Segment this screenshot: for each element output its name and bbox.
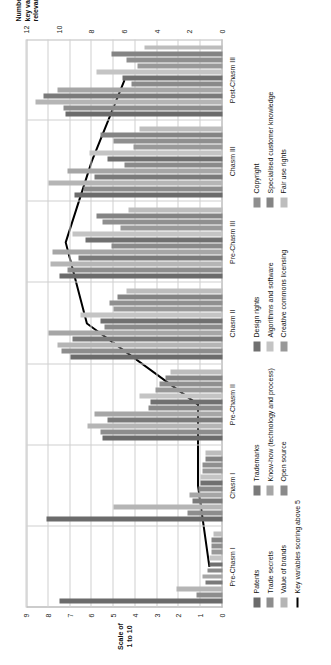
legend-column: PatentsTrade secretsValue of brandsKey v… <box>252 500 306 607</box>
legend-item[interactable]: Value of brands <box>279 500 287 607</box>
bar-group <box>26 39 222 120</box>
legend-item[interactable]: Trademarks <box>252 368 260 495</box>
legend-label: Fair use rights <box>279 149 287 193</box>
legend-item[interactable]: Know-how (technology and process) <box>266 368 274 495</box>
bar <box>126 288 222 293</box>
bar-group <box>26 201 222 282</box>
bar <box>83 186 222 191</box>
bar <box>192 498 222 503</box>
bar <box>57 342 223 347</box>
bar <box>202 462 222 467</box>
bar <box>144 45 222 50</box>
bar <box>100 132 222 137</box>
bar <box>80 312 222 317</box>
bar <box>211 537 222 542</box>
bar <box>35 99 222 104</box>
bar <box>72 231 222 236</box>
legend-item[interactable]: Patents <box>252 500 260 607</box>
legend-item[interactable]: Specialised customer knowledge <box>266 91 274 207</box>
bar <box>209 556 222 561</box>
bar <box>61 348 222 353</box>
y-axis-tick-label: 1 <box>196 613 204 635</box>
legend-item[interactable]: Copyright <box>252 91 260 207</box>
legend-item[interactable]: Creative commons licensing <box>279 249 287 351</box>
bar <box>96 69 222 74</box>
y-axis-tick-label: 7 <box>66 613 74 635</box>
legend-item[interactable]: Trade secrets <box>266 500 274 607</box>
bar <box>126 57 222 62</box>
bar <box>59 273 222 278</box>
bar <box>139 393 222 398</box>
legend-item[interactable]: Key variables scoring above 5 <box>293 500 301 607</box>
legend-item[interactable]: Algorithms and software <box>266 249 274 351</box>
bar <box>137 63 222 68</box>
y-axis-tick-label: 3 <box>153 613 161 635</box>
bar <box>48 180 222 185</box>
chart-canvas: Scale of1 to 10 Number ofkey variablesre… <box>0 0 331 665</box>
legend-item[interactable]: Design rights <box>252 249 260 351</box>
bar <box>211 543 222 548</box>
bar <box>128 207 222 212</box>
bar-group <box>26 282 222 363</box>
y-axis-tick-label: 6 <box>87 613 95 635</box>
category-label: Chasm III <box>228 120 236 201</box>
secondary-y-axis-tick-label: 0 <box>218 11 226 33</box>
y-axis-tick-label: 8 <box>44 613 52 635</box>
bar <box>94 174 222 179</box>
bar <box>65 111 222 116</box>
bar <box>205 580 222 585</box>
bar <box>205 456 222 461</box>
legend-label: Algorithms and software <box>266 262 274 337</box>
legend-item[interactable]: Open source <box>279 368 287 495</box>
legend-label: Trademarks <box>252 444 260 481</box>
category-label: Pre-Chasm I <box>228 526 236 607</box>
category-label: Chasm I <box>228 445 236 526</box>
bar <box>213 531 222 536</box>
legend-color-swatch-icon <box>280 485 287 495</box>
bar <box>50 261 222 266</box>
bar <box>133 144 222 149</box>
bar <box>111 243 222 248</box>
bar <box>176 586 222 591</box>
legend-label: Value of brands <box>279 544 287 593</box>
legend-color-swatch-icon <box>266 197 273 207</box>
secondary-y-axis-tick-label: 8 <box>87 11 95 33</box>
y-axis-tick-label: 5 <box>109 613 117 635</box>
legend-color-swatch-icon <box>266 485 273 495</box>
legend-item[interactable]: Fair use rights <box>279 91 287 207</box>
bar <box>122 75 222 80</box>
legend-label: Key variables scoring above 5 <box>293 500 301 593</box>
legend-column: Design rightsAlgorithms and softwareCrea… <box>252 249 293 351</box>
bar <box>78 255 222 260</box>
bar <box>209 562 222 567</box>
legend-label: Open source <box>279 441 287 481</box>
bar <box>48 330 222 335</box>
bar <box>104 324 222 329</box>
bar <box>150 399 222 404</box>
y-axis-tick-label: 4 <box>131 613 139 635</box>
bar <box>52 249 222 254</box>
bar <box>148 405 222 410</box>
bar <box>200 474 222 479</box>
bar <box>107 417 222 422</box>
bar <box>202 574 222 579</box>
bar <box>59 598 222 603</box>
bar-group <box>26 120 222 201</box>
bar <box>74 192 222 197</box>
bar <box>100 429 222 434</box>
legend-color-swatch-icon <box>253 197 260 207</box>
bar <box>72 336 222 341</box>
bar <box>187 510 222 515</box>
secondary-y-axis-tick-label: 4 <box>153 11 161 33</box>
bar <box>96 213 222 218</box>
bar <box>196 592 222 597</box>
bar <box>113 138 222 143</box>
bar <box>198 486 222 491</box>
secondary-y-axis-tick-label: 10 <box>55 11 63 33</box>
y-axis-tick-label: 2 <box>174 613 182 635</box>
bar <box>120 225 222 230</box>
bar <box>94 411 222 416</box>
category-label: Chasm II <box>228 282 236 363</box>
legend-label: Trade secrets <box>266 550 274 593</box>
bar <box>57 87 223 92</box>
